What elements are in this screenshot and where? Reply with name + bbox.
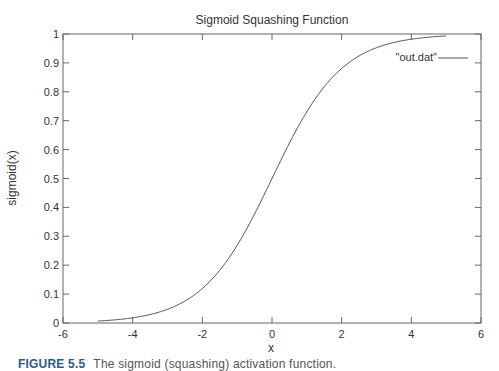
x-tick-label: 4 [408,328,414,340]
y-tick-label: 0.9 [44,57,59,69]
figure-caption: FIGURE 5.5The sigmoid (squashing) activa… [18,357,336,371]
x-tick-label: -4 [128,328,138,340]
y-tick-label: 0.6 [44,144,59,156]
y-tick-label: 0.1 [44,288,59,300]
chart-title: Sigmoid Squashing Function [196,13,349,27]
x-tick-label: -6 [58,328,68,340]
x-tick-label: 6 [478,328,484,340]
y-tick-label: 0 [53,317,59,329]
axis-tick-labels: -6-4-2024600.10.20.30.40.50.60.70.80.91 [44,28,484,340]
x-tick-label: 0 [269,328,275,340]
y-tick-label: 0.3 [44,230,59,242]
y-tick-label: 0.4 [44,201,59,213]
y-tick-label: 0.7 [44,115,59,127]
legend: "out.dat" [396,51,468,63]
y-tick-label: 0.8 [44,86,59,98]
x-tick-label: 2 [339,328,345,340]
y-axis-label: sigmoid(x) [5,150,19,205]
figure-label: FIGURE 5.5 [18,357,85,371]
caption-text: The sigmoid (squashing) activation funct… [93,357,336,371]
legend-label: "out.dat" [396,51,438,63]
x-tick-label: -2 [197,328,207,340]
sigmoid-curve [98,36,446,321]
y-tick-label: 0.5 [44,173,59,185]
y-tick-label: 1 [53,28,59,40]
y-tick-label: 0.2 [44,259,59,271]
x-axis-label: x [268,341,274,355]
